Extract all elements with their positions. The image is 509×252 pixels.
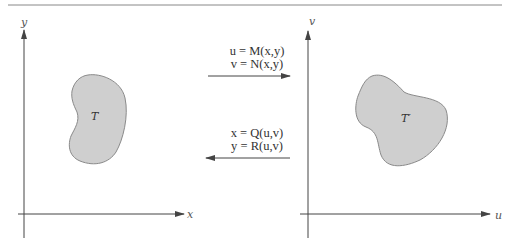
u-axis-label: u	[495, 209, 502, 222]
forward-eq-2: v = N(x,y)	[212, 58, 302, 71]
v-axis-label: v	[309, 15, 316, 28]
left-coordinate-system: y x T	[18, 16, 194, 238]
y-axis-label: y	[20, 16, 28, 29]
forward-map-equations: u = M(x,y) v = N(x,y)	[212, 45, 302, 71]
inverse-eq-2: y = R(u,v)	[212, 140, 302, 153]
x-axis-label: x	[187, 208, 194, 221]
region-t-prime-label: T′	[401, 112, 411, 125]
inverse-map-equations: x = Q(u,v) y = R(u,v)	[212, 127, 302, 153]
right-coordinate-system: v u T′	[300, 15, 502, 238]
